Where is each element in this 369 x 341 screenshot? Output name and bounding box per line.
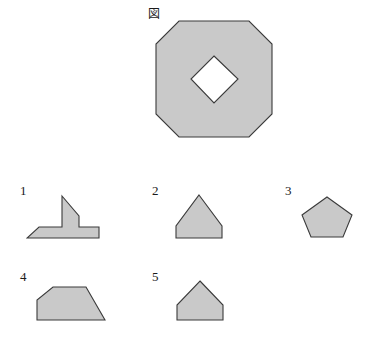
option-number-4: 4 xyxy=(20,270,27,283)
shape-option-2[interactable] xyxy=(172,194,226,240)
figure-caption: 図 xyxy=(148,8,160,20)
shape-option-1[interactable] xyxy=(26,194,102,240)
option-number-3: 3 xyxy=(285,184,292,197)
shape-option-4-polygon[interactable] xyxy=(37,287,105,320)
shape-option-3-polygon[interactable] xyxy=(302,197,352,237)
shape-option-5-polygon[interactable] xyxy=(177,281,223,320)
shape-option-1-polygon[interactable] xyxy=(27,196,99,238)
shape-option-3[interactable] xyxy=(300,196,354,238)
shape-option-5[interactable] xyxy=(174,280,226,322)
shape-option-4[interactable] xyxy=(36,286,106,322)
main-octagon-shape xyxy=(155,20,273,138)
figure-page: 図 12345 xyxy=(0,0,369,341)
option-number-5: 5 xyxy=(152,270,159,283)
shape-option-2-polygon[interactable] xyxy=(176,195,222,238)
octagon-with-hole-path xyxy=(156,21,272,137)
option-number-2: 2 xyxy=(152,184,159,197)
